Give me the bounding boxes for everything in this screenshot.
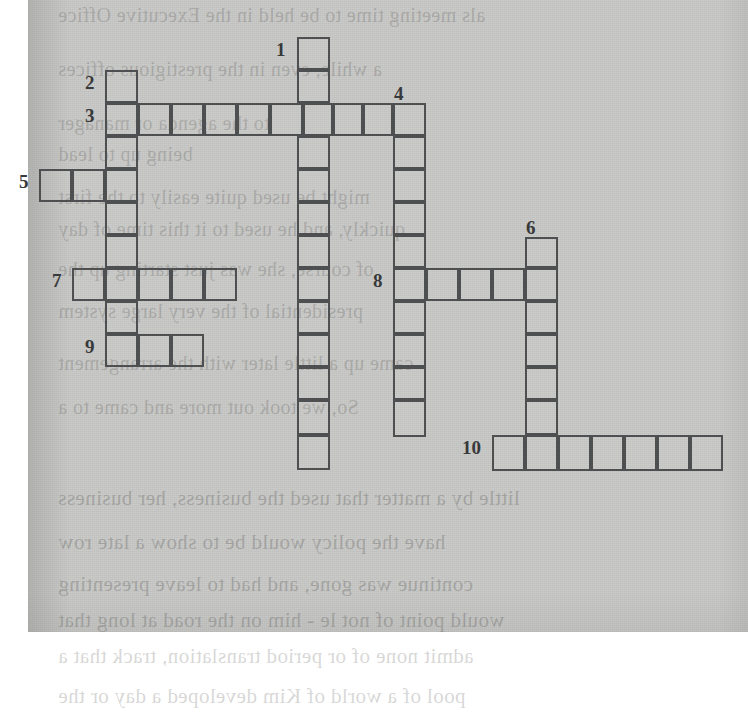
crossword-cell[interactable] xyxy=(105,301,138,334)
crossword-cell[interactable] xyxy=(525,334,558,367)
crossword-cell[interactable] xyxy=(525,237,558,268)
crossword-cell[interactable] xyxy=(690,435,723,471)
crossword-cell[interactable] xyxy=(297,169,330,202)
crossword-cell[interactable] xyxy=(297,268,330,301)
crossword-cell[interactable] xyxy=(393,400,426,437)
crossword-cell[interactable] xyxy=(105,268,138,301)
clue-number-7: 7 xyxy=(52,271,62,290)
crossword-cell[interactable] xyxy=(297,400,330,435)
clue-number-8: 8 xyxy=(373,271,383,290)
crossword-cell[interactable] xyxy=(297,367,330,400)
crossword-cell[interactable] xyxy=(297,435,330,470)
clue-number-1: 1 xyxy=(276,40,286,59)
crossword-cell[interactable] xyxy=(525,435,558,471)
crossword-cell[interactable] xyxy=(333,103,363,136)
crossword-cell[interactable] xyxy=(297,235,330,268)
crossword-cell[interactable] xyxy=(39,169,72,202)
showthrough-text-line: admit none of or period translation, tra… xyxy=(58,644,474,669)
crossword-cell[interactable] xyxy=(393,301,426,334)
crossword-cell[interactable] xyxy=(297,334,330,367)
crossword-cell[interactable] xyxy=(105,334,138,367)
crossword-cell[interactable] xyxy=(171,268,204,301)
crossword-cell[interactable] xyxy=(492,268,525,301)
crossword-cell[interactable] xyxy=(237,103,270,136)
crossword-cell[interactable] xyxy=(297,136,330,169)
crossword-cell[interactable] xyxy=(393,169,426,202)
crossword-cell[interactable] xyxy=(297,37,330,70)
crossword-cell[interactable] xyxy=(657,435,690,471)
crossword-cell[interactable] xyxy=(558,435,591,471)
crossword-cell[interactable] xyxy=(363,103,393,136)
crossword-cell[interactable] xyxy=(138,268,171,301)
showthrough-text-line: pool of a world of Kim developed a day o… xyxy=(58,684,466,709)
crossword-cell[interactable] xyxy=(393,235,426,268)
crossword-page: als meeting time to be held in the Execu… xyxy=(0,0,748,725)
crossword-cell[interactable] xyxy=(492,435,525,471)
crossword-cell[interactable] xyxy=(393,136,426,169)
crossword-cell[interactable] xyxy=(297,202,330,235)
clue-number-3: 3 xyxy=(85,106,95,125)
crossword-cell[interactable] xyxy=(459,268,492,301)
crossword-cell[interactable] xyxy=(624,435,657,471)
crossword-cell[interactable] xyxy=(105,136,138,169)
crossword-cell[interactable] xyxy=(270,103,303,136)
crossword-cell[interactable] xyxy=(297,301,330,334)
crossword-cell[interactable] xyxy=(171,103,204,136)
clue-number-6: 6 xyxy=(526,218,536,237)
crossword-cell[interactable] xyxy=(105,103,138,136)
crossword-cell[interactable] xyxy=(393,103,426,136)
crossword-grid[interactable]: 12345678910 xyxy=(0,0,748,632)
crossword-cell[interactable] xyxy=(138,334,171,367)
crossword-cell[interactable] xyxy=(591,435,624,471)
crossword-cell[interactable] xyxy=(171,334,204,367)
crossword-cell[interactable] xyxy=(303,103,333,136)
crossword-cell[interactable] xyxy=(525,301,558,334)
crossword-cell[interactable] xyxy=(72,268,105,301)
crossword-cell[interactable] xyxy=(393,268,426,301)
crossword-cell[interactable] xyxy=(72,169,105,202)
crossword-cell[interactable] xyxy=(297,70,330,103)
clue-number-5: 5 xyxy=(19,172,29,191)
clue-number-10: 10 xyxy=(462,438,481,457)
crossword-cell[interactable] xyxy=(393,334,426,367)
crossword-cell[interactable] xyxy=(525,400,558,435)
crossword-cell[interactable] xyxy=(525,367,558,400)
crossword-cell[interactable] xyxy=(393,367,426,400)
clue-number-9: 9 xyxy=(85,337,95,356)
crossword-cell[interactable] xyxy=(204,268,237,301)
crossword-cell[interactable] xyxy=(525,268,558,301)
crossword-cell[interactable] xyxy=(204,103,237,136)
crossword-cell[interactable] xyxy=(138,103,171,136)
clue-number-4: 4 xyxy=(394,84,404,103)
crossword-cell[interactable] xyxy=(105,70,138,103)
clue-number-2: 2 xyxy=(85,73,95,92)
crossword-cell[interactable] xyxy=(105,235,138,268)
crossword-cell[interactable] xyxy=(105,169,138,202)
crossword-cell[interactable] xyxy=(105,202,138,235)
crossword-cell[interactable] xyxy=(393,202,426,235)
crossword-cell[interactable] xyxy=(426,268,459,301)
